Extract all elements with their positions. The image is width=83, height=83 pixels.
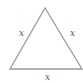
left-side-label: x bbox=[19, 28, 24, 38]
right-side-label: x bbox=[70, 28, 75, 38]
triangle-diagram: x x x bbox=[0, 0, 83, 83]
triangle-shape bbox=[10, 8, 82, 69]
bottom-side-label: x bbox=[45, 72, 50, 82]
